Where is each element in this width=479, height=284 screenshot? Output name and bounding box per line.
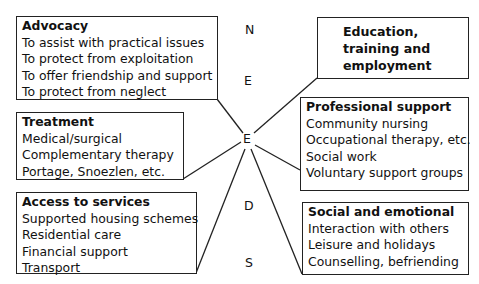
box-title: Education, training and employment [343, 23, 443, 74]
list-item: Transport [22, 260, 191, 277]
list-item: Portage, Snoezlen, etc. [22, 164, 178, 181]
list-item: To protect from neglect [22, 84, 212, 101]
box-title: Professional support [306, 99, 463, 116]
list-item: To protect from exploitation [22, 51, 212, 68]
list-item: Social work [306, 149, 463, 166]
box-title: Advocacy [22, 18, 212, 35]
list-item: To assist with practical issues [22, 35, 212, 52]
box-access-to-services: Access to services Supported housing sch… [16, 192, 197, 274]
line-to-social [251, 149, 302, 274]
acronym-letter-s: S [245, 256, 253, 270]
box-education: Education, training and employment [317, 17, 469, 79]
box-treatment: Treatment Medical/surgical Complementary… [16, 112, 184, 180]
list-item: Interaction with others [308, 221, 463, 238]
list-item: Leisure and holidays [308, 237, 463, 254]
list-item: Occupational therapy, etc. [306, 132, 463, 149]
list-item: Medical/surgical [22, 131, 178, 148]
box-professional-support: Professional support Community nursing O… [300, 97, 469, 191]
acronym-letter-e2-center: E [243, 132, 251, 146]
list-item: Complementary therapy [22, 147, 178, 164]
box-advocacy: Advocacy To assist with practical issues… [16, 16, 218, 100]
box-social-emotional: Social and emotional Interaction with ot… [302, 202, 469, 275]
list-item: Counselling, befriending [308, 254, 463, 271]
list-item: Community nursing [306, 116, 463, 133]
line-to-treatment [183, 142, 241, 179]
box-title: Social and emotional [308, 204, 463, 221]
box-title: Access to services [22, 194, 191, 211]
list-item: Supported housing schemes [22, 211, 191, 228]
box-title: Treatment [22, 114, 178, 131]
acronym-letter-e1: E [244, 74, 252, 88]
list-item: Residential care [22, 227, 191, 244]
line-to-advocacy [217, 99, 243, 133]
list-item: Financial support [22, 244, 191, 261]
acronym-letter-d: D [244, 199, 254, 213]
list-item: To offer friendship and support [22, 68, 212, 85]
list-item: Voluntary support groups [306, 165, 463, 182]
line-to-professional [255, 145, 300, 170]
line-to-access [196, 149, 245, 273]
acronym-letter-n: N [245, 23, 254, 37]
